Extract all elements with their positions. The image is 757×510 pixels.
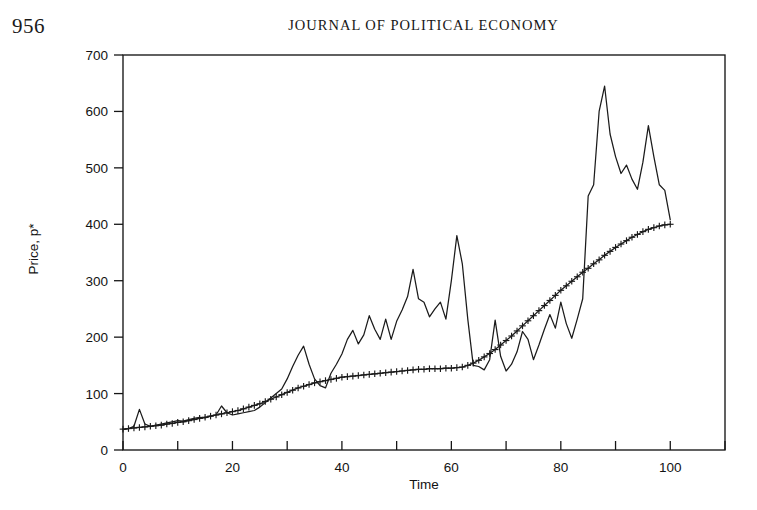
x-tick-label: 20 <box>225 460 240 475</box>
y-tick-label: 400 <box>85 217 108 232</box>
plot-border <box>123 55 725 450</box>
plot-frame <box>123 55 725 450</box>
series-price <box>123 86 670 430</box>
y-tick-label: 0 <box>100 443 108 458</box>
y-tick-label: 500 <box>85 161 108 176</box>
y-tick-label: 200 <box>85 330 108 345</box>
series-fundamental-markers <box>120 221 674 432</box>
y-tick-label: 100 <box>85 387 108 402</box>
data-series-group <box>120 86 674 432</box>
y-axis-tick-labels: 0100200300400500600700 <box>85 48 108 458</box>
x-tick-label: 100 <box>659 460 682 475</box>
y-axis-ticks <box>114 55 123 450</box>
x-axis-ticks <box>123 441 725 450</box>
x-axis-tick-labels: 020406080100 <box>119 460 681 475</box>
x-tick-label: 0 <box>119 460 127 475</box>
price-time-chart: 020406080100 0100200300400500600700 Time… <box>0 34 757 510</box>
x-tick-label: 40 <box>334 460 349 475</box>
running-head: 956 JOURNAL OF POLITICAL ECONOMY <box>0 8 757 34</box>
x-axis-title: Time <box>409 477 439 492</box>
y-tick-label: 700 <box>85 48 108 63</box>
series-fundamental <box>123 224 670 429</box>
journal-title: JOURNAL OF POLITICAL ECONOMY <box>0 17 757 34</box>
y-tick-label: 600 <box>85 104 108 119</box>
x-tick-label: 60 <box>444 460 459 475</box>
figure-plot: 020406080100 0100200300400500600700 Time… <box>0 34 757 510</box>
journal-page: 956 JOURNAL OF POLITICAL ECONOMY 0204060… <box>0 0 757 510</box>
x-tick-label: 80 <box>553 460 568 475</box>
y-axis-title: Price, p* <box>26 223 41 275</box>
y-tick-label: 300 <box>85 274 108 289</box>
